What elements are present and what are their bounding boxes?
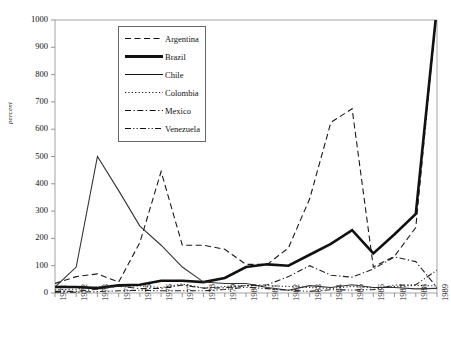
- legend-item[interactable]: Colombia: [123, 84, 200, 102]
- legend-swatch: [123, 102, 165, 120]
- series-line-venezuela: [55, 270, 437, 292]
- legend-item[interactable]: Venezuela: [123, 120, 200, 138]
- legend-item[interactable]: Mexico: [123, 102, 200, 120]
- legend-label: Brazil: [165, 48, 200, 66]
- legend-table: ArgentinaBrazilChileColombiaMexicoVenezu…: [123, 30, 200, 138]
- plot-area: [0, 0, 451, 339]
- legend-item[interactable]: Brazil: [123, 48, 200, 66]
- series-line-brazil: [55, 6, 437, 288]
- legend-label: Chile: [165, 66, 200, 84]
- legend-item[interactable]: Argentina: [123, 30, 200, 48]
- legend-label: Argentina: [165, 30, 200, 48]
- legend-label: Venezuela: [165, 120, 200, 138]
- legend-swatch: [123, 30, 165, 48]
- axis-frame: [55, 20, 437, 293]
- legend-swatch: [123, 48, 165, 66]
- chart-legend: ArgentinaBrazilChileColombiaMexicoVenezu…: [118, 26, 206, 142]
- legend-swatch: [123, 120, 165, 138]
- legend-swatch: [123, 84, 165, 102]
- legend-item[interactable]: Chile: [123, 66, 200, 84]
- legend-swatch: [123, 66, 165, 84]
- line-chart: percent 01002003004005006007008009001000…: [0, 0, 451, 339]
- series-line-chile: [55, 157, 437, 291]
- series-group: [55, 6, 437, 292]
- series-line-argentina: [55, 6, 437, 283]
- legend-label: Colombia: [165, 84, 200, 102]
- legend-label: Mexico: [165, 102, 200, 120]
